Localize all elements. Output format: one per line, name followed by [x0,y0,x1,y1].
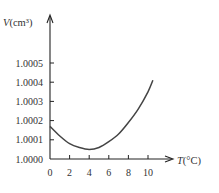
x-tick-label: 4 [87,167,92,178]
curve-layer [50,80,153,149]
y-tick-label: 1.0000 [16,154,44,165]
y-tick-label: 1.0004 [16,77,44,88]
y-axis-title: V(cm³) [3,17,33,29]
axes [47,15,173,162]
volume-curve [50,80,153,149]
x-tick-label: 2 [67,167,72,178]
x-tick-label: 10 [143,167,153,178]
x-tick-label: 6 [106,167,111,178]
y-tick-label: 1.0005 [16,58,44,69]
y-tick-label: 1.0003 [16,96,44,107]
y-tick-label: 1.0002 [16,115,44,126]
x-axis-title: T(°C) [177,155,202,167]
chart: 1.00001.00011.00021.00031.00041.00050246… [0,0,219,193]
x-tick-label: 0 [48,167,53,178]
x-tick-label: 8 [126,167,131,178]
y-tick-label: 1.0001 [16,134,44,145]
